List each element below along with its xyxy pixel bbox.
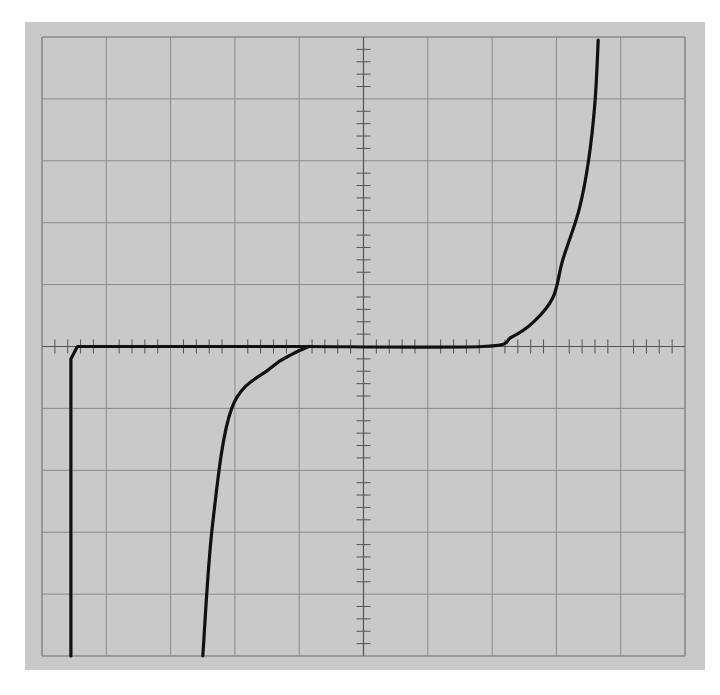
- trace-right-rise: [309, 40, 598, 347]
- trace-curves: [71, 40, 598, 656]
- oscilloscope-chart: [0, 0, 720, 695]
- trace-center-knee: [203, 347, 309, 657]
